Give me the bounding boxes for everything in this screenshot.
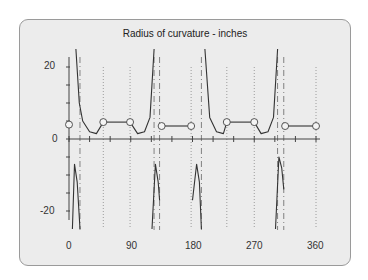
y-tick-label-20: 20 [44,60,55,71]
y-tick-label-neg20: -20 [40,205,54,216]
data-marker [188,123,195,130]
data-marker [223,119,230,126]
x-tick-label-0: 0 [66,240,72,251]
x-tick-label-270: 270 [246,240,263,251]
curve-negative-lobe-1 [72,164,80,229]
data-marker [100,119,107,126]
curve-negative-lobe-2 [152,164,160,229]
data-marker [66,121,73,128]
curve-negative-lobe-3 [193,164,202,229]
data-marker [251,119,258,126]
x-tick-label-90: 90 [126,240,137,251]
x-tick-label-180: 180 [185,240,202,251]
data-marker [127,119,134,126]
y-tick-label-0: 0 [52,133,58,144]
curve-negative-lobe-4 [276,157,284,229]
data-marker [313,123,320,130]
x-tick-label-360: 360 [307,240,324,251]
data-marker [158,123,165,130]
data-marker [282,123,289,130]
